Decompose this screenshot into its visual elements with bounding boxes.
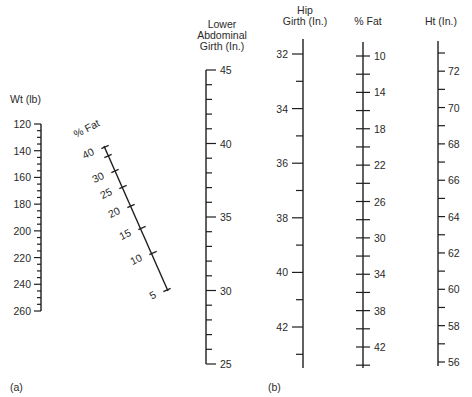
abdominal-tick-label: 35 xyxy=(220,211,232,223)
fat-b-tick-label: 34 xyxy=(374,268,386,280)
fat-diagonal-label: 5 xyxy=(147,288,158,301)
fat-diagonal-label: 20 xyxy=(106,204,122,220)
fat-diagonal-label: 40 xyxy=(80,145,96,161)
hip-tick-label: 38 xyxy=(276,212,288,224)
hip-tick-label: 42 xyxy=(276,321,288,333)
fat-b-tick-label: 42 xyxy=(374,341,386,353)
fat-b-tick-label: 10 xyxy=(374,50,386,62)
height-title: Ht (In.) xyxy=(425,15,457,27)
height-tick-label: 58 xyxy=(448,320,460,332)
height-tick-label: 64 xyxy=(448,211,460,223)
panel-a-label: (a) xyxy=(10,381,23,393)
fat-b-tick-label: 30 xyxy=(374,232,386,244)
abdominal-tick-label: 30 xyxy=(220,285,232,297)
hip-title-line2: Girth (In.) xyxy=(283,15,327,27)
height-tick-label: 72 xyxy=(448,65,460,77)
fat-b-title: % Fat xyxy=(354,15,382,27)
hip-tick-label: 34 xyxy=(276,103,288,115)
fat-diagonal-title: % Fat xyxy=(71,117,101,140)
hip-girth-scale: Hip Girth (In.) 323436384042 xyxy=(276,4,327,368)
height-tick-label: 62 xyxy=(448,247,460,259)
weight-scale: Wt (lb) 120140160180200220240260 xyxy=(10,93,41,317)
weight-tick-label: 160 xyxy=(13,171,31,183)
weight-tick-label: 200 xyxy=(13,225,31,237)
panel-b-label: (b) xyxy=(268,381,281,393)
abdominal-title-line3: Girth (In.) xyxy=(200,40,244,52)
fat-b-tick-label: 14 xyxy=(374,86,386,98)
height-tick-label: 56 xyxy=(448,356,460,368)
weight-tick-label: 180 xyxy=(13,198,31,210)
weight-tick-label: 140 xyxy=(13,145,31,157)
fat-b-tick-label: 38 xyxy=(374,305,386,317)
fat-diagonal-label: 10 xyxy=(128,251,144,267)
hip-tick-label: 32 xyxy=(276,48,288,60)
fat-diagonal-label: 15 xyxy=(117,226,133,242)
fat-diagonal-label: 30 xyxy=(90,169,106,185)
height-tick-label: 60 xyxy=(448,283,460,295)
weight-tick-label: 220 xyxy=(13,252,31,264)
height-tick-label: 70 xyxy=(448,102,460,114)
nomogram-figure: Wt (lb) 120140160180200220240260 % Fat 4… xyxy=(0,0,472,397)
hip-tick-label: 40 xyxy=(276,266,288,278)
weight-tick-label: 240 xyxy=(13,278,31,290)
height-tick-label: 66 xyxy=(448,174,460,186)
fat-b-tick-label: 18 xyxy=(374,123,386,135)
abdominal-tick-label: 45 xyxy=(220,64,232,76)
abdominal-tick-label: 25 xyxy=(220,358,232,370)
fat-scale-b: % Fat 101418222630343842 xyxy=(354,15,386,368)
fat-b-tick-label: 22 xyxy=(374,159,386,171)
fat-b-tick-label: 26 xyxy=(374,196,386,208)
lower-abdominal-scale: Lower Abdominal Girth (In.) 4540353025 xyxy=(197,18,247,370)
fat-scale-diagonal: % Fat 4030252015105 xyxy=(71,117,170,302)
weight-scale-title: Wt (lb) xyxy=(10,93,41,105)
height-scale: Ht (In.) 727068666462605856 xyxy=(425,15,460,368)
weight-tick-label: 120 xyxy=(13,118,31,130)
weight-tick-label: 260 xyxy=(13,305,31,317)
fat-diagonal-label: 25 xyxy=(98,185,114,201)
hip-tick-label: 36 xyxy=(276,157,288,169)
height-tick-label: 68 xyxy=(448,138,460,150)
abdominal-tick-label: 40 xyxy=(220,138,232,150)
